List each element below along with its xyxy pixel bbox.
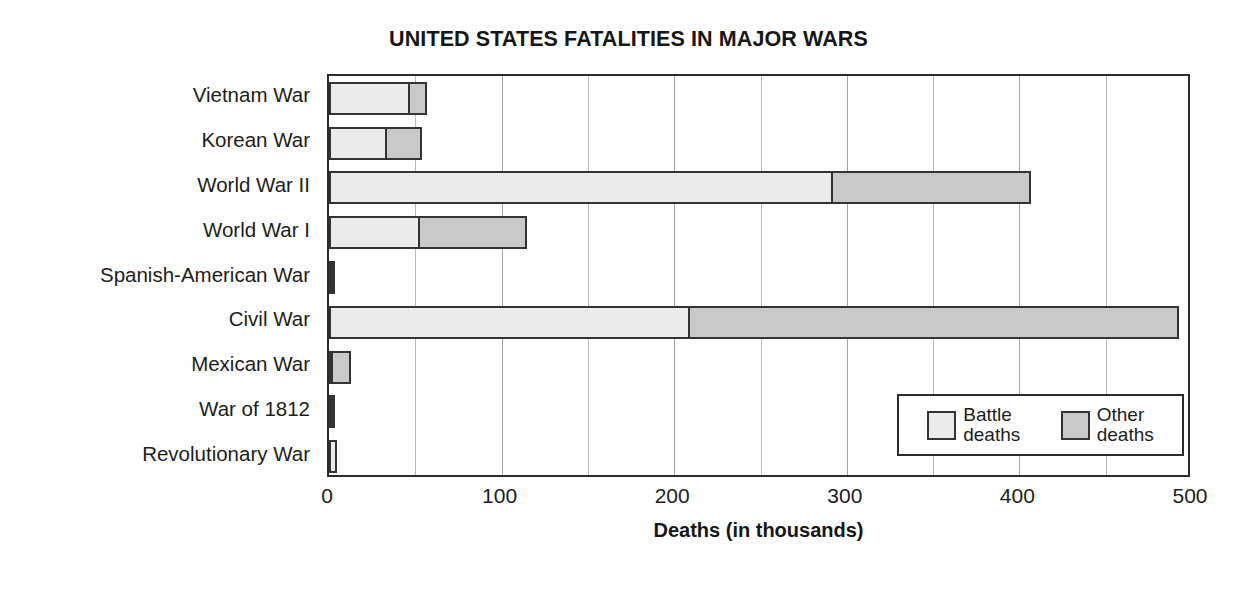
legend-label-line2: deaths (963, 425, 1020, 445)
bar-segment-other-deaths (331, 351, 351, 384)
bar-segment-battle-deaths (329, 440, 337, 473)
x-axis-title: Deaths (in thousands) (327, 519, 1190, 542)
legend-label-line2: deaths (1097, 425, 1154, 445)
bar-segment-battle-deaths (329, 171, 833, 204)
legend-swatch-other-deaths (1061, 411, 1090, 440)
bar-row (329, 306, 1188, 339)
stacked-bar (329, 351, 351, 384)
bar-segment-battle-deaths (329, 216, 420, 249)
chart-title: UNITED STATES FATALITIES IN MAJOR WARS (0, 27, 1257, 52)
x-axis-tick-label: 400 (1000, 484, 1035, 508)
x-axis-tick-labels: 0100200300400500 (327, 484, 1190, 514)
y-axis-label: Revolutionary War (142, 444, 310, 465)
y-axis-category-labels: Vietnam WarKorean WarWorld War IIWorld W… (0, 74, 320, 477)
chart-legend: BattledeathsOtherdeaths (897, 394, 1184, 456)
x-axis-tick-label: 300 (827, 484, 862, 508)
stacked-bar (329, 395, 335, 428)
bar-segment-other-deaths (331, 261, 335, 294)
legend-entry: Battledeaths (927, 405, 1020, 445)
legend-label: Battledeaths (963, 405, 1020, 445)
bar-segment-other-deaths (331, 395, 335, 428)
legend-entry: Otherdeaths (1061, 405, 1154, 445)
legend-label: Otherdeaths (1097, 405, 1154, 445)
legend-label-line1: Other (1097, 405, 1154, 425)
stacked-bar (329, 306, 1179, 339)
y-axis-label: Korean War (201, 130, 310, 151)
bar-segment-other-deaths (418, 216, 527, 249)
legend-swatch-battle-deaths (927, 411, 956, 440)
x-axis-tick-label: 200 (655, 484, 690, 508)
bar-row (329, 82, 1188, 115)
y-axis-label: Mexican War (191, 354, 310, 375)
stacked-bar (329, 171, 1031, 204)
x-axis-tick-label: 0 (321, 484, 333, 508)
stacked-bar (329, 127, 422, 160)
stacked-bar (329, 82, 427, 115)
bar-row (329, 216, 1188, 249)
stacked-bar (329, 216, 527, 249)
bar-chart: UNITED STATES FATALITIES IN MAJOR WARS V… (0, 0, 1257, 595)
bar-row (329, 261, 1188, 294)
bar-segment-battle-deaths (329, 306, 690, 339)
y-axis-label: Vietnam War (193, 85, 310, 106)
y-axis-label: Spanish-American War (100, 265, 310, 286)
y-axis-label: World War I (203, 220, 310, 241)
bar-segment-other-deaths (385, 127, 421, 160)
bar-segment-battle-deaths (329, 82, 410, 115)
bar-segment-other-deaths (831, 171, 1031, 204)
stacked-bar (329, 261, 335, 294)
y-axis-label: War of 1812 (199, 399, 310, 420)
stacked-bar (329, 440, 337, 473)
x-axis-tick-label: 100 (482, 484, 517, 508)
legend-label-line1: Battle (963, 405, 1020, 425)
bar-segment-other-deaths (408, 82, 427, 115)
bar-row (329, 351, 1188, 384)
bar-row (329, 127, 1188, 160)
y-axis-label: World War II (197, 175, 310, 196)
bar-segment-other-deaths (688, 306, 1180, 339)
bar-row (329, 171, 1188, 204)
x-axis-tick-label: 500 (1172, 484, 1207, 508)
bar-segment-battle-deaths (329, 127, 388, 160)
y-axis-label: Civil War (229, 309, 310, 330)
